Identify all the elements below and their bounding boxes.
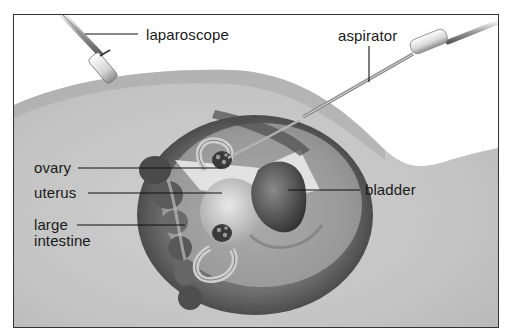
ovary-drawing [212, 151, 232, 169]
label-ovary: ovary [34, 159, 71, 176]
label-aspirator: aspirator [338, 27, 397, 44]
laparoscope-drawing [62, 14, 119, 85]
label-large-intestine-line2: intestine [34, 232, 91, 249]
label-large-intestine-line1: large [34, 216, 68, 233]
ovary-drawing-lower [212, 224, 232, 242]
label-bladder: bladder [365, 181, 416, 198]
label-uterus: uterus [34, 184, 76, 201]
label-laparoscope: laparoscope [146, 26, 229, 43]
anatomy-illustration [0, 0, 513, 335]
laparoscopy-figure: laparoscope aspirator ovary uterus large… [0, 0, 513, 335]
